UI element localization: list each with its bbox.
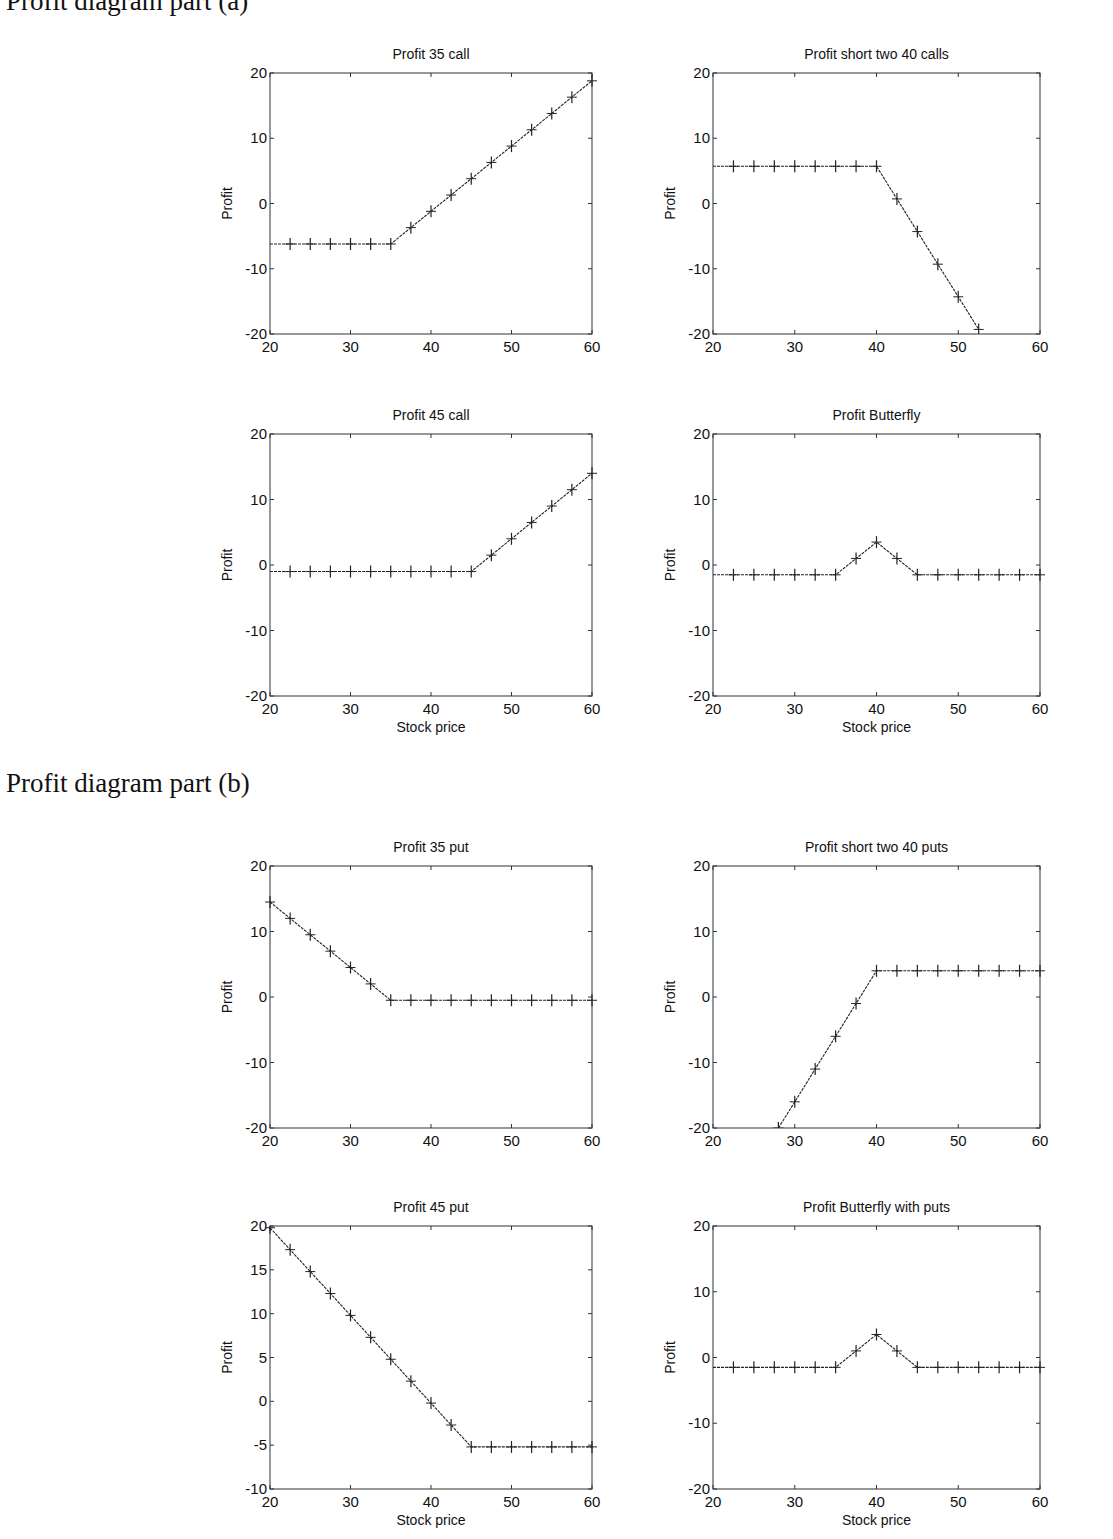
x-tick-label: 50 — [950, 1493, 967, 1510]
data-series — [713, 1328, 1045, 1373]
x-tick-label: 30 — [786, 1493, 803, 1510]
axes-box — [713, 1226, 1040, 1489]
y-tick-label: -20 — [688, 1480, 710, 1497]
y-tick-label: -10 — [688, 1414, 710, 1431]
x-axis-label: Stock price — [842, 1512, 911, 1528]
chart-title: Profit Butterfly with puts — [803, 1199, 950, 1215]
y-tick-label: 10 — [693, 1283, 710, 1300]
y-axis-label: Profit — [662, 1341, 678, 1374]
x-tick-label: 40 — [868, 1493, 885, 1510]
x-tick-label: 60 — [1032, 1493, 1049, 1510]
y-tick-label: 20 — [693, 1217, 710, 1234]
chart-profit-butterfly-with-puts: 2030405060-20-1001020Profit Butterfly wi… — [0, 0, 1113, 1539]
y-tick-label: 0 — [702, 1349, 710, 1366]
